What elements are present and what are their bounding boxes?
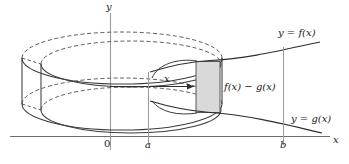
y-axis-label: y xyxy=(106,2,112,12)
curve-label-f-of-x: y = f(x) xyxy=(278,28,316,38)
radius-label-x: x xyxy=(164,74,170,84)
inner-bottom-ellipse-back-dashed xyxy=(41,87,221,110)
curve-f-of-x xyxy=(150,42,320,72)
outer-bottom-ellipse-back-dashed xyxy=(22,78,222,104)
connector-top-dashed xyxy=(22,58,41,64)
curve-label-g-of-x: y = g(x) xyxy=(291,114,331,124)
solid-of-revolution-svg xyxy=(0,0,349,164)
shell-thickness-connectors xyxy=(22,58,41,110)
connector-bottom-dashed xyxy=(22,104,41,110)
outer-top-ellipse-back-dashed xyxy=(22,32,222,58)
shaded-cross-section-face xyxy=(196,62,220,113)
figure-container: y x 0 a b y = f(x) y = g(x) f(x) − g(x) … xyxy=(0,0,349,164)
shaded-cross-section-group xyxy=(196,62,220,113)
x-tick-label-a: a xyxy=(145,140,151,150)
radius-arrow-head xyxy=(187,84,194,90)
x-tick-label-b: b xyxy=(280,140,286,150)
origin-label: 0 xyxy=(104,139,110,149)
height-measure-label: f(x) − g(x) xyxy=(224,82,276,92)
x-axis-label: x xyxy=(333,135,339,145)
outer-bottom-ellipse-front xyxy=(22,104,222,130)
